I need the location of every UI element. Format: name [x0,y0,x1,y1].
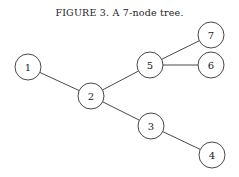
node-label: 5 [147,60,153,71]
node-1: 1 [15,54,41,80]
node-label: 7 [208,30,214,41]
node-label: 3 [148,121,154,132]
tree-diagram: 1234567 [0,0,239,177]
node-6: 6 [198,52,224,78]
node-label: 4 [209,150,215,161]
node-7: 7 [198,22,224,48]
node-label: 2 [88,91,94,102]
node-4: 4 [199,142,225,168]
node-2: 2 [78,83,104,109]
node-5: 5 [137,52,163,78]
tree-edges [40,41,200,150]
node-label: 1 [25,62,31,73]
node-3: 3 [138,113,164,139]
edge-2-5 [103,71,139,90]
edge-5-7 [162,41,200,60]
edge-3-4 [163,132,201,150]
edge-1-2 [40,72,79,90]
node-label: 6 [208,60,214,71]
edge-2-3 [103,102,140,120]
